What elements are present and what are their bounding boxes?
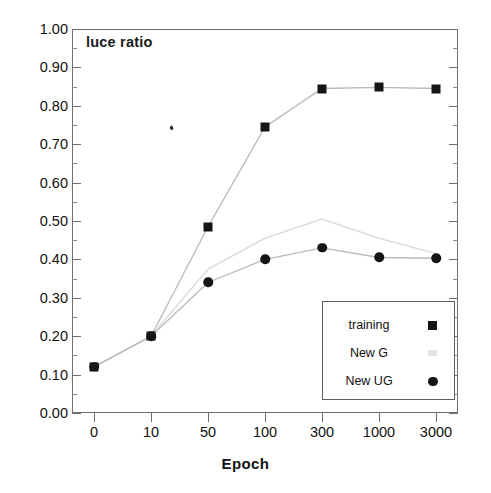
filled-circle-icon [428, 377, 438, 387]
faded-marker-icon [428, 350, 437, 356]
series-lines [0, 0, 491, 493]
legend-marker [423, 371, 445, 391]
legend-marker [423, 315, 445, 335]
chart-figure: luce ratio 0.000.100.200.300.400.500.600… [0, 0, 491, 493]
legend-label: New UG [323, 371, 415, 391]
legend-label: training [323, 315, 415, 335]
legend-item[interactable]: New UG [323, 371, 456, 391]
legend-item[interactable]: New G [323, 343, 456, 363]
filled-square-icon [428, 321, 437, 330]
chart-legend[interactable]: trainingNew GNew UG [322, 301, 455, 400]
legend-label: New G [323, 343, 415, 363]
legend-item[interactable]: training [323, 315, 456, 335]
legend-marker [423, 343, 445, 363]
